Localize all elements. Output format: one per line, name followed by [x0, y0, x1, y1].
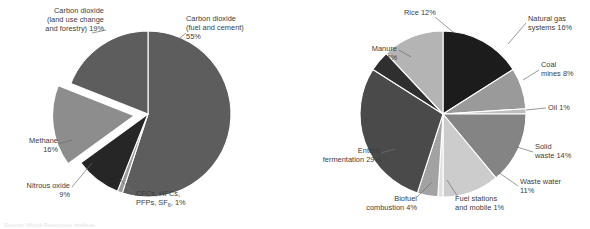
chart-panel-global-emissions: Carbon dioxide(land use changeand forest…	[0, 0, 295, 229]
fgases-subscript: 6	[168, 202, 171, 208]
leader-line	[435, 17, 453, 32]
pie-label-coal-mines: Coalmines 8%	[541, 60, 589, 78]
pie-label-co2-land-use: Carbon dioxide(land use changeand forest…	[6, 6, 104, 34]
leader-line	[523, 70, 539, 80]
pie-label-fuel-stations-and-mobile: Fuel stationsand mobile 1%	[455, 194, 531, 212]
fgases-line-1: CFCs, HFCs,	[136, 189, 180, 198]
pie-label-co2-fuel-cement: Carbon dioxide(fuel and cement)55%	[186, 14, 290, 42]
pie-label-methane: Methane16%	[2, 136, 58, 154]
leader-line	[72, 163, 92, 187]
fgases-line-2-suffix: , 1%	[171, 198, 186, 207]
two-pie-chart-figure: Carbon dioxide(land use changeand forest…	[0, 0, 590, 229]
pie-label-biofuel-combustion: Biofuelcombustion 4%	[349, 194, 417, 212]
pie-label-solid-waste: Solidwaste 14%	[535, 142, 590, 160]
caption-fragment: Source: World Resources Institute	[4, 222, 95, 228]
leader-line	[517, 147, 533, 152]
fgases-line-2-prefix: PFPs, SF	[136, 198, 168, 207]
pie-label-rice: Rice 12%	[404, 8, 474, 17]
leader-line	[508, 23, 526, 44]
pie-label-oil: Oil 1%	[548, 103, 590, 112]
pie-label-enteric-fermentation: Entericfermentation 29%	[297, 146, 381, 164]
pie-label-nitrous-oxide: Nitrous oxide9%	[0, 181, 70, 199]
pie-label-fluorinated-gases: CFCs, HFCs,PFPs, SF6, 1%	[136, 189, 228, 208]
pie-label-waste-water: Waste water11%	[520, 177, 590, 195]
leader-line	[526, 108, 546, 110]
chart-panel-methane-sources: Rice 12% Manure4% Natural gassystems 16%…	[295, 0, 590, 229]
leader-line	[498, 172, 518, 186]
pie-label-manure: Manure4%	[335, 44, 397, 62]
pie-label-natural-gas-systems: Natural gassystems 16%	[528, 14, 590, 32]
